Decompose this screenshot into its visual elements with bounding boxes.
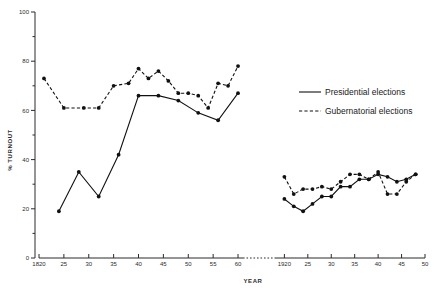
data-point <box>357 177 361 181</box>
x-tick-label: 35 <box>351 261 358 267</box>
data-point <box>196 94 200 98</box>
data-point <box>292 192 296 196</box>
data-point <box>196 111 200 115</box>
data-point <box>339 185 343 189</box>
y-tick-label: 20 <box>22 206 29 212</box>
x-tick-label: 55 <box>210 261 217 267</box>
data-point <box>386 175 390 179</box>
x-axis-title: YEAR <box>243 278 262 284</box>
data-point <box>137 67 141 71</box>
data-point <box>404 180 408 184</box>
data-point <box>236 91 240 95</box>
y-axis: 020406080100 <box>19 9 35 261</box>
data-point <box>311 202 315 206</box>
y-tick-label: 40 <box>22 157 29 163</box>
data-point <box>82 106 86 110</box>
data-point <box>367 177 371 181</box>
data-point <box>117 153 121 157</box>
data-point <box>62 106 66 110</box>
x-tick-label: 1920 <box>278 261 292 267</box>
data-point <box>376 170 380 174</box>
x-tick-label: 25 <box>304 261 311 267</box>
data-point <box>112 84 116 88</box>
x-tick-label: 45 <box>398 261 405 267</box>
data-point <box>282 197 286 201</box>
data-point <box>320 195 324 199</box>
data-point <box>348 172 352 176</box>
x-tick-label: 45 <box>160 261 167 267</box>
x-tick-label: 40 <box>135 261 142 267</box>
legend: Presidential electionsGubernatorial elec… <box>299 87 412 116</box>
data-point <box>57 209 61 213</box>
data-point <box>42 77 46 81</box>
data-point <box>414 172 418 176</box>
data-point <box>97 106 101 110</box>
data-point <box>186 91 190 95</box>
data-point <box>395 192 399 196</box>
legend-label-1: Gubernatorial elections <box>325 106 412 116</box>
data-point <box>386 192 390 196</box>
data-point <box>339 180 343 184</box>
y-tick-label: 60 <box>22 108 29 114</box>
chart-canvas: 020406080100 182025303540455055601920253… <box>0 0 434 299</box>
data-point <box>157 94 161 98</box>
x-tick-label: 50 <box>185 261 192 267</box>
data-point <box>395 180 399 184</box>
data-point <box>97 195 101 199</box>
y-tick-label: 0 <box>26 255 30 261</box>
series-line-0 <box>59 93 238 211</box>
x-tick-label: 60 <box>235 261 242 267</box>
data-point <box>311 187 315 191</box>
x-tick-label: 25 <box>61 261 68 267</box>
data-point <box>166 79 170 83</box>
x-tick-label: 50 <box>422 261 429 267</box>
turnout-chart: 020406080100 182025303540455055601920253… <box>0 0 434 299</box>
data-point <box>301 187 305 191</box>
data-point <box>176 99 180 103</box>
data-point <box>282 175 286 179</box>
x-tick-label: 1820 <box>32 261 46 267</box>
data-point <box>77 170 81 174</box>
data-point <box>147 77 151 81</box>
data-point <box>357 172 361 176</box>
data-point <box>329 187 333 191</box>
data-point <box>137 94 141 98</box>
data-point <box>236 64 240 68</box>
data-point <box>348 185 352 189</box>
data-point <box>127 81 131 85</box>
x-tick-label: 30 <box>328 261 335 267</box>
data-point <box>301 209 305 213</box>
y-axis-title: % TURNOUT <box>7 129 13 171</box>
legend-label-0: Presidential elections <box>325 87 405 97</box>
y-tick-label: 80 <box>22 58 29 64</box>
data-point <box>216 81 220 85</box>
x-tick-label: 30 <box>85 261 92 267</box>
data-point <box>292 204 296 208</box>
x-tick-label: 35 <box>110 261 117 267</box>
data-point <box>226 84 230 88</box>
data-point <box>329 195 333 199</box>
data-point <box>157 69 161 73</box>
x-axis: 182025303540455055601920253035404550 <box>32 254 429 267</box>
data-point <box>320 185 324 189</box>
x-tick-label: 40 <box>375 261 382 267</box>
data-point <box>216 118 220 122</box>
data-point <box>176 91 180 95</box>
data-point <box>206 106 210 110</box>
y-tick-label: 100 <box>19 9 30 15</box>
series-line-1 <box>44 66 238 108</box>
